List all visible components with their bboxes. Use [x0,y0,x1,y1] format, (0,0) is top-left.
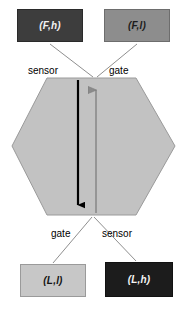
state-box-top-right[interactable]: (F,l) [104,9,170,42]
state-box-top-left[interactable]: (F,h) [17,9,83,42]
state-box-bottom-left[interactable]: (L,l) [20,264,86,297]
state-box-bottom-right[interactable]: (L,h) [105,262,173,297]
state-box-top-right-label: (F,l) [128,21,146,31]
state-box-bottom-left-label: (L,l) [43,276,62,286]
port-label-gate-bottom: gate [51,229,70,239]
hexagon-state-region [12,78,175,215]
connector-bottom-right [94,217,136,261]
state-box-bottom-right-label: (L,h) [128,275,151,285]
connector-bottom-left [53,217,92,263]
port-label-sensor-top: sensor [28,66,58,76]
state-transition-diagram: (F,h) (F,l) (L,l) (L,h) sensor gate gate… [0,0,188,310]
state-box-top-left-label: (F,h) [39,21,61,31]
port-label-gate-top: gate [109,66,128,76]
port-label-sensor-bottom: sensor [102,229,132,239]
